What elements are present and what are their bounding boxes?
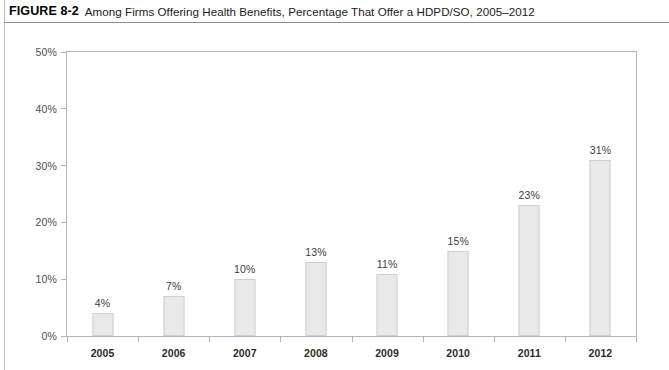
bar-chart: 0%10%20%30%40%50% 4%7%10%13%11%15%23%31%… (0, 23, 669, 370)
y-axis-tick: 50% (35, 46, 66, 58)
y-axis-tick-label: 20% (35, 216, 57, 228)
bars-container: 4%7%10%13%11%15%23%31% (67, 52, 636, 336)
x-axis-label: 2008 (304, 347, 328, 359)
x-axis-tick-mark (565, 337, 566, 342)
bar[interactable] (163, 296, 184, 336)
x-axis-tick-mark (138, 337, 139, 342)
x-axis-label: 2012 (589, 347, 613, 359)
y-axis-tick-mark (61, 279, 66, 280)
bar[interactable] (519, 205, 540, 336)
bar[interactable] (234, 279, 255, 336)
bar-group: 13% (280, 52, 351, 336)
bar-group: 31% (565, 52, 636, 336)
bar-group: 7% (138, 52, 209, 336)
x-axis-tick-mark (67, 337, 68, 342)
y-axis-tick: 30% (35, 160, 66, 172)
bar[interactable] (377, 274, 398, 336)
bar-group: 11% (352, 52, 423, 336)
y-axis-tick-mark (61, 52, 66, 53)
x-axis-label: 2006 (162, 347, 186, 359)
x-axis-label: 2010 (446, 347, 470, 359)
y-axis-tick: 10% (35, 273, 66, 285)
bar-value-label: 7% (166, 280, 182, 292)
y-axis-tick-label: 0% (41, 330, 57, 342)
y-axis-tick-label: 30% (35, 160, 57, 172)
y-axis-tick-label: 10% (35, 273, 57, 285)
x-axis-label: 2011 (518, 347, 541, 359)
y-axis: 0%10%20%30%40%50% (0, 51, 66, 337)
x-axis-label: 2009 (375, 347, 399, 359)
bar-value-label: 10% (234, 263, 256, 275)
y-axis-tick: 40% (35, 103, 66, 115)
bar[interactable] (590, 160, 611, 336)
y-axis-tick-mark (61, 222, 66, 223)
bar-value-label: 13% (305, 246, 327, 258)
figure-caption: FIGURE 8-2 Among Firms Offering Health B… (9, 0, 669, 22)
y-axis-tick-label: 40% (35, 103, 57, 115)
bar-group: 15% (423, 52, 494, 336)
bar-group: 10% (209, 52, 280, 336)
bar-group: 23% (494, 52, 565, 336)
bar[interactable] (92, 313, 113, 336)
x-axis-tick-mark (494, 337, 495, 342)
x-axis-tick-mark (423, 337, 424, 342)
x-axis-tick-mark (280, 337, 281, 342)
bar-value-label: 23% (519, 189, 541, 201)
figure-title: Among Firms Offering Health Benefits, Pe… (85, 5, 535, 18)
x-axis-label: 2007 (233, 347, 257, 359)
y-axis-tick-mark (61, 108, 66, 109)
bar-value-label: 11% (377, 258, 398, 270)
bar[interactable] (448, 251, 469, 336)
bar-value-label: 31% (590, 144, 612, 156)
x-axis: 20052006200720082009201020112012 (66, 337, 637, 370)
y-axis-tick-mark (61, 165, 66, 166)
bar-group: 4% (67, 52, 138, 336)
y-axis-tick: 20% (35, 216, 66, 228)
x-axis-tick-mark (352, 337, 353, 342)
bar[interactable] (305, 262, 326, 336)
x-axis-tick-mark (636, 337, 637, 342)
x-axis-tick-mark (209, 337, 210, 342)
bar-value-label: 15% (447, 235, 469, 247)
x-axis-label: 2005 (91, 347, 115, 359)
figure-number: FIGURE 8-2 (9, 4, 79, 18)
y-axis-tick: 0% (41, 330, 66, 342)
bar-value-label: 4% (95, 297, 111, 309)
y-axis-tick-label: 50% (35, 46, 57, 58)
figure-page: FIGURE 8-2 Among Firms Offering Health B… (0, 0, 669, 370)
